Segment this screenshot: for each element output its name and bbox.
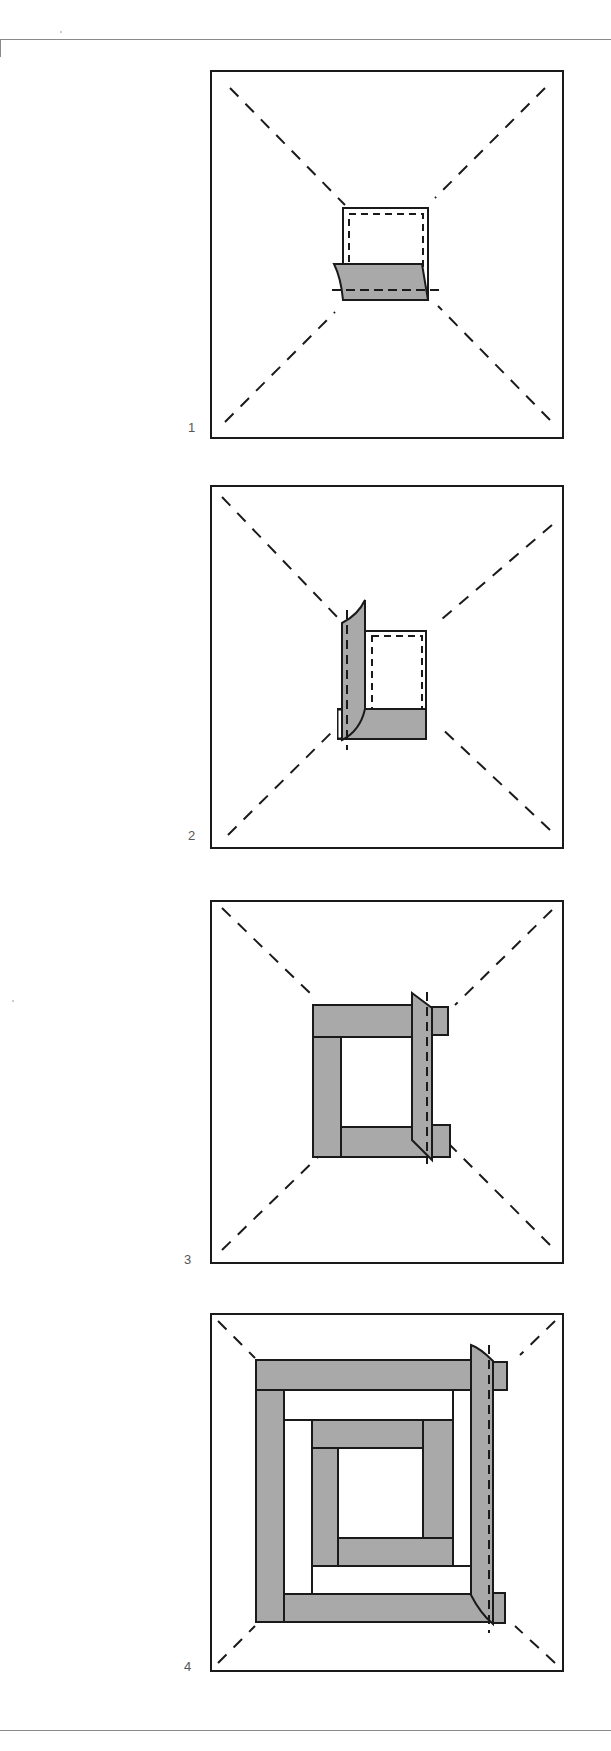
bottom-rule xyxy=(0,1730,611,1731)
top-rule xyxy=(0,39,611,40)
step-3-diagram xyxy=(210,900,565,1265)
step-4-panel: 4 xyxy=(210,1313,565,1673)
left-rule-tick xyxy=(0,39,1,57)
step-number: 1 xyxy=(188,420,195,435)
step-number: 2 xyxy=(188,828,195,843)
step-2-diagram xyxy=(210,485,565,850)
print-speck xyxy=(60,31,62,33)
step-number: 4 xyxy=(184,1659,191,1674)
step-1-panel: 1 xyxy=(210,70,565,440)
step-3-panel: 3 xyxy=(210,900,565,1265)
print-speck xyxy=(12,1000,14,1002)
step-4-diagram xyxy=(210,1313,565,1673)
step-number: 3 xyxy=(184,1252,191,1267)
step-2-panel: 2 xyxy=(210,485,565,850)
step-1-diagram xyxy=(210,70,565,440)
